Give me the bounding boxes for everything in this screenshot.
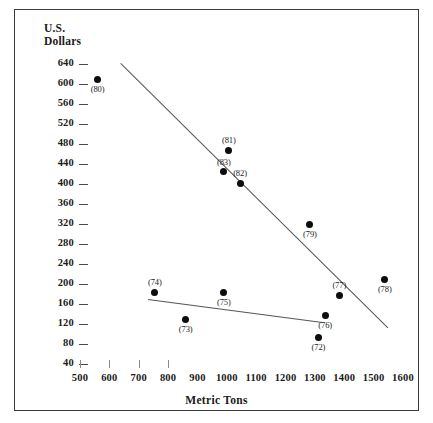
y-axis-tick-label: 440 bbox=[40, 157, 74, 168]
y-axis-tick-label: 480 bbox=[40, 137, 74, 148]
data-point bbox=[151, 289, 158, 296]
y-axis-tick-label: 600 bbox=[40, 77, 74, 88]
y-axis-tick-mark bbox=[79, 344, 88, 345]
y-axis-tick-mark bbox=[79, 224, 88, 225]
y-axis-tick-mark bbox=[79, 204, 88, 205]
data-point bbox=[381, 276, 388, 283]
y-axis-tick-label: 400 bbox=[40, 177, 74, 188]
data-point bbox=[306, 221, 313, 228]
data-point-label: (74) bbox=[140, 277, 170, 287]
y-axis-tick-label: 560 bbox=[40, 97, 74, 108]
y-axis-tick-mark bbox=[79, 164, 88, 165]
x-axis-title: Metric Tons bbox=[0, 394, 433, 406]
data-point-label: (78) bbox=[370, 284, 400, 294]
data-point bbox=[336, 292, 343, 299]
data-point-label: (80) bbox=[83, 84, 113, 94]
y-axis-tick-label: 120 bbox=[40, 317, 74, 328]
data-point-label: (72) bbox=[303, 342, 333, 352]
data-point-label: (75) bbox=[209, 297, 239, 307]
x-axis-tick-label: 1600 bbox=[385, 372, 421, 383]
y-axis-tick-label: 80 bbox=[40, 337, 74, 348]
data-point-label: (73) bbox=[171, 324, 201, 334]
y-axis-tick-mark bbox=[79, 324, 88, 325]
x-axis-tick-mark bbox=[109, 360, 110, 368]
y-axis-tick-label: 360 bbox=[40, 197, 74, 208]
y-axis-tick-label: 200 bbox=[40, 277, 74, 288]
y-axis-tick-mark bbox=[79, 304, 88, 305]
y-axis-tick-label: 160 bbox=[40, 297, 74, 308]
y-axis-tick-mark bbox=[79, 264, 88, 265]
y-axis-tick-mark bbox=[79, 104, 88, 105]
scatter-plot: 6406005605204804404003603202802402001601… bbox=[0, 0, 433, 423]
y-axis-tick-mark bbox=[79, 184, 88, 185]
x-axis-tick-mark bbox=[168, 360, 169, 368]
y-axis-tick-label: 640 bbox=[40, 57, 74, 68]
data-point bbox=[94, 76, 101, 83]
data-point-label: (77) bbox=[324, 280, 354, 290]
y-axis-tick-label: 520 bbox=[40, 117, 74, 128]
y-axis-tick-label: 40 bbox=[40, 357, 74, 368]
data-point-label: (79) bbox=[295, 229, 325, 239]
y-axis-tick-label: 240 bbox=[40, 257, 74, 268]
y-axis-tick-label: 280 bbox=[40, 237, 74, 248]
data-point-label: (76) bbox=[310, 320, 340, 330]
data-point-label: (81) bbox=[214, 135, 244, 145]
data-point-label: (82) bbox=[225, 168, 255, 178]
data-point bbox=[220, 289, 227, 296]
data-point bbox=[182, 316, 189, 323]
data-point bbox=[237, 180, 244, 187]
y-axis-tick-mark bbox=[79, 64, 88, 65]
x-axis-tick-mark bbox=[139, 360, 140, 368]
y-axis-tick-mark bbox=[79, 284, 88, 285]
data-point bbox=[315, 334, 322, 341]
x-axis-tick-mark bbox=[80, 360, 81, 368]
data-point bbox=[322, 312, 329, 319]
y-axis-tick-mark bbox=[79, 124, 88, 125]
y-axis-tick-mark bbox=[79, 144, 88, 145]
y-axis-tick-label: 320 bbox=[40, 217, 74, 228]
data-point bbox=[225, 147, 232, 154]
y-axis-tick-mark bbox=[79, 244, 88, 245]
data-point-label: (83) bbox=[209, 157, 239, 167]
